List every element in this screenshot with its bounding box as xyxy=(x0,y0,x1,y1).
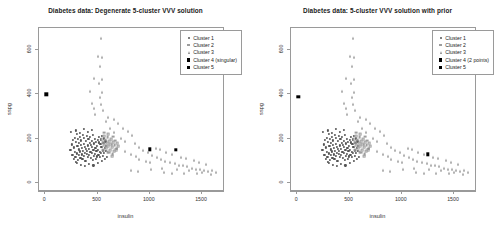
data-point xyxy=(95,157,97,159)
data-point xyxy=(399,151,401,154)
data-point xyxy=(351,156,353,158)
legend-label: Cluster 1 xyxy=(193,35,214,41)
data-point xyxy=(394,148,396,151)
data-point xyxy=(334,134,336,136)
data-point xyxy=(349,54,351,57)
data-point xyxy=(345,76,347,79)
data-point xyxy=(138,145,140,148)
data-point xyxy=(159,148,161,151)
data-point xyxy=(83,137,85,139)
x-tick-label: 1000 xyxy=(143,196,155,202)
data-point xyxy=(105,120,107,123)
data-point xyxy=(174,148,177,151)
x-tick-mark xyxy=(201,191,202,194)
data-point xyxy=(84,160,86,162)
data-point xyxy=(387,155,389,158)
data-point xyxy=(297,95,300,98)
x-tick-label: 500 xyxy=(344,196,353,202)
data-point xyxy=(328,162,330,164)
data-point xyxy=(376,150,378,153)
data-point xyxy=(100,36,102,39)
data-point xyxy=(131,134,133,137)
data-point xyxy=(76,145,78,147)
data-point xyxy=(345,137,347,139)
data-point xyxy=(423,152,425,155)
data-point xyxy=(102,109,104,112)
data-point xyxy=(354,134,357,137)
data-point xyxy=(96,145,98,147)
y-tick-mark xyxy=(35,138,38,139)
data-point xyxy=(328,145,330,147)
data-point xyxy=(354,149,357,152)
data-point xyxy=(390,145,392,148)
data-point xyxy=(462,172,464,175)
x-tick-mark xyxy=(401,191,402,194)
legend-row: Cluster 3 xyxy=(184,49,237,56)
data-point xyxy=(457,162,459,165)
data-point xyxy=(77,138,79,140)
legend-row: Cluster 5 xyxy=(436,64,489,71)
data-point xyxy=(215,171,217,174)
data-point xyxy=(122,126,124,129)
panel-left-x-axis xyxy=(38,191,224,192)
data-point xyxy=(343,102,345,105)
data-point xyxy=(93,155,95,157)
data-point xyxy=(191,166,193,169)
data-point xyxy=(161,166,163,169)
y-tick-mark xyxy=(35,93,38,94)
data-point xyxy=(155,146,157,149)
data-point xyxy=(210,172,212,175)
data-point xyxy=(80,163,82,165)
data-point xyxy=(340,154,342,156)
data-point xyxy=(342,140,344,142)
data-point xyxy=(91,129,93,131)
legend-marker-triangle-icon xyxy=(436,51,445,54)
data-point xyxy=(92,164,94,166)
data-point xyxy=(89,136,91,138)
data-point xyxy=(344,149,346,151)
data-point xyxy=(70,131,72,133)
data-point xyxy=(91,146,93,148)
data-point xyxy=(73,137,75,139)
data-point xyxy=(362,155,365,158)
data-point xyxy=(102,134,105,137)
data-point xyxy=(402,168,404,171)
data-point xyxy=(337,140,339,142)
data-point xyxy=(86,135,88,137)
data-point xyxy=(93,76,95,79)
data-point xyxy=(445,159,447,162)
data-point xyxy=(322,131,324,133)
data-point xyxy=(149,161,151,164)
data-point xyxy=(103,152,105,154)
y-tick-mark xyxy=(35,49,38,50)
legend-row: Cluster 2 xyxy=(184,41,237,48)
panel-right-y-label: sspg xyxy=(258,103,264,115)
data-point xyxy=(90,140,92,142)
data-point xyxy=(106,136,109,139)
panel-left-title: Diabetes data: Degenerate 5-cluster VVV … xyxy=(0,7,251,14)
panel-right-x-label: insulin xyxy=(252,213,503,219)
legend-row: Cluster 4 (2 points) xyxy=(436,56,489,63)
legend-row: Cluster 2 xyxy=(436,41,489,48)
panel-right-legend: Cluster 1Cluster 2Cluster 3Cluster 4 (2 … xyxy=(432,30,494,75)
x-tick-mark xyxy=(97,191,98,194)
panel-right-x-axis xyxy=(290,191,476,192)
data-point xyxy=(426,162,428,165)
data-point xyxy=(389,169,391,172)
data-point xyxy=(93,137,95,139)
legend-label: Cluster 5 xyxy=(193,64,214,70)
data-point xyxy=(372,136,374,139)
data-point xyxy=(92,149,94,151)
data-point xyxy=(351,95,353,98)
data-point xyxy=(338,150,340,152)
data-point xyxy=(358,136,361,139)
data-point xyxy=(467,171,469,174)
data-point xyxy=(73,146,75,148)
data-point xyxy=(106,151,109,154)
data-point xyxy=(45,93,48,96)
data-point xyxy=(332,139,334,141)
data-point xyxy=(163,170,165,173)
data-point xyxy=(417,151,419,154)
y-tick-mark xyxy=(35,182,38,183)
data-point xyxy=(100,103,102,106)
